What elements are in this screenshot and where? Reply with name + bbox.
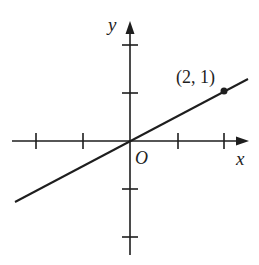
x-axis-arrow-icon [236,137,249,146]
y-axis-label: y [108,15,116,34]
point-label: (2, 1) [176,68,215,86]
plot-svg [0,0,259,265]
origin-label: O [135,149,148,167]
y-axis-arrow-icon [126,21,135,34]
point-2-1 [221,88,228,95]
coordinate-diagram: y x O (2, 1) [0,0,259,265]
x-axis-label: x [236,149,244,168]
